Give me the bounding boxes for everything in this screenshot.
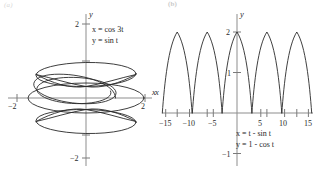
x-axis-label-left: x: [151, 87, 156, 97]
xtick-label-neg15: −15: [159, 119, 172, 128]
xtick-label-pos15: 15: [304, 119, 312, 128]
xtick-label-pos5: 5: [258, 119, 262, 128]
left-equation-y: y = sin t: [92, 35, 123, 46]
xtick-label-neg2-left: −2: [8, 102, 17, 111]
left-equation-x: x = cos 3t: [92, 24, 123, 35]
ytick-label-pos2-right: 2: [226, 28, 230, 37]
ytick-label-neg2-left: −2: [70, 154, 79, 163]
xtick-label-pos2-left: 2: [141, 102, 145, 111]
lissajous-svg: y x −2 2 2 −2: [0, 0, 158, 172]
right-equations: x = t - sin t y = 1 - cos t: [236, 128, 274, 150]
y-axis-label-right: y: [239, 9, 244, 19]
right-panel-cycloid: (b): [158, 0, 316, 172]
left-panel-lissajous: (a): [0, 0, 158, 172]
ytick-label-neg1-right: −1: [222, 150, 231, 159]
xtick-label-pos10: 10: [279, 119, 287, 128]
y-axis-label-left: y: [88, 9, 93, 19]
ytick-label-pos1-right: 1: [227, 69, 231, 78]
xtick-label-neg10: −10: [183, 119, 196, 128]
right-equation-x: x = t - sin t: [236, 128, 274, 139]
left-equations: x = cos 3t y = sin t: [92, 24, 123, 46]
right-equation-y: y = 1 - cos t: [236, 139, 274, 150]
ytick-label-pos2-left: 2: [75, 20, 79, 29]
xtick-label-neg5: −5: [208, 119, 217, 128]
figure-container: (a): [0, 0, 316, 172]
